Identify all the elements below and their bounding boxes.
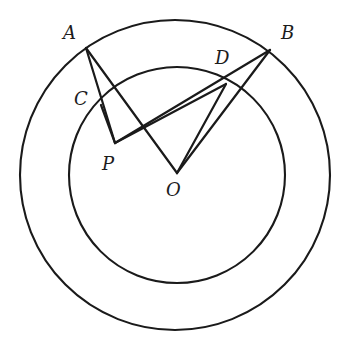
- segment-C-P: [101, 105, 115, 143]
- vertex-label-O: O: [166, 181, 181, 199]
- vertex-label-C: C: [74, 90, 88, 108]
- segment-A-O: [86, 48, 177, 173]
- vertex-label-P: P: [102, 155, 114, 173]
- geometry-canvas: [0, 0, 358, 347]
- segment-B-P: [115, 50, 270, 143]
- vertex-label-A: A: [63, 24, 76, 42]
- vertex-label-D: D: [215, 49, 229, 67]
- geometry-figure: A B C D P O: [0, 0, 358, 347]
- vertex-label-B: B: [281, 24, 294, 42]
